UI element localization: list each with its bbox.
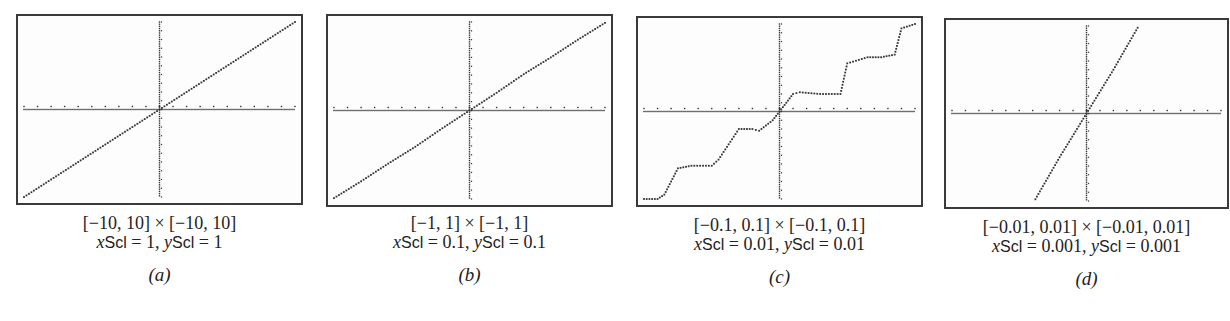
scale-text-c: xScl = 0.01, yScl = 0.01 xyxy=(636,235,923,254)
window-range-b: [−1, 1] × [−1, 1] xyxy=(326,214,613,233)
caption-b: [−1, 1] × [−1, 1] xScl = 0.1, yScl = 0.1 xyxy=(326,214,613,252)
panel-label-d: (d) xyxy=(944,268,1229,290)
scale-text-a: xScl = 1, yScl = 1 xyxy=(16,233,303,252)
panel-label-b: (b) xyxy=(326,264,613,286)
caption-d: [−0.01, 0.01] × [−0.01, 0.01] xScl = 0.0… xyxy=(944,218,1229,256)
graph-frame-d xyxy=(944,18,1229,209)
window-range-a: [−10, 10] × [−10, 10] xyxy=(16,214,303,233)
graph-frame-b xyxy=(326,14,613,207)
scale-text-b: xScl = 0.1, yScl = 0.1 xyxy=(326,233,613,252)
window-range-d: [−0.01, 0.01] × [−0.01, 0.01] xyxy=(944,218,1229,237)
graph-plot-c xyxy=(638,18,921,205)
panel-label-c: (c) xyxy=(636,266,923,288)
window-range-c: [−0.1, 0.1] × [−0.1, 0.1] xyxy=(636,216,923,235)
caption-a: [−10, 10] × [−10, 10] xScl = 1, yScl = 1 xyxy=(16,214,303,252)
panel-label-a: (a) xyxy=(16,264,303,286)
scale-text-d: xScl = 0.001, yScl = 0.001 xyxy=(944,237,1229,256)
graph-plot-a xyxy=(18,16,301,203)
graph-frame-a xyxy=(16,14,303,205)
caption-c: [−0.1, 0.1] × [−0.1, 0.1] xScl = 0.01, y… xyxy=(636,216,923,254)
graph-plot-d xyxy=(946,20,1227,207)
graph-plot-b xyxy=(328,16,611,205)
graph-frame-c xyxy=(636,16,923,207)
